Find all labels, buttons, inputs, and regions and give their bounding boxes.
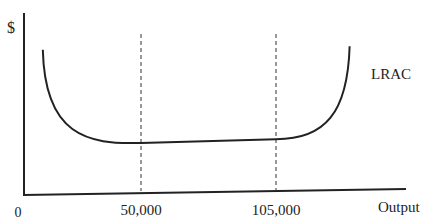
- x-tick-label: 50,000: [120, 202, 161, 218]
- chart: $ 0 Output 50,000105,000 LRAC: [0, 0, 425, 224]
- lrac-curve: [43, 46, 350, 143]
- y-axis-label: $: [7, 19, 15, 36]
- lrac-label: LRAC: [371, 66, 411, 82]
- x-tick-label: 105,000: [252, 202, 301, 218]
- x-axis-label: Output: [378, 199, 421, 215]
- x-axis: [23, 189, 406, 195]
- origin-label: 0: [15, 205, 22, 220]
